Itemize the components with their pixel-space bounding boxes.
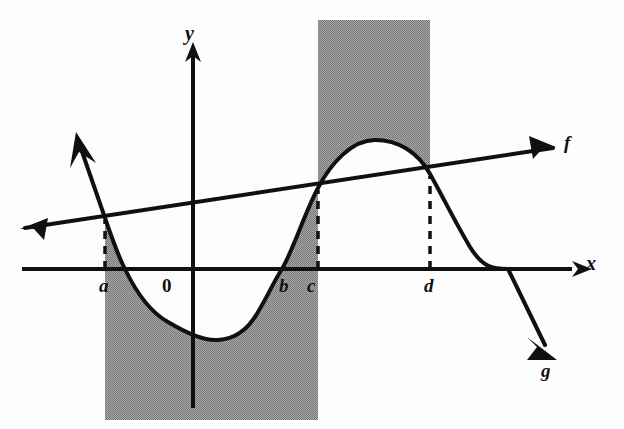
tick-label-b: b (279, 275, 289, 297)
tick-label-d: d (424, 275, 434, 297)
plot-area (0, 0, 624, 429)
tick-label-c: c (307, 275, 315, 297)
x-axis-label: x (586, 252, 596, 275)
curve-f-arrowhead-start (20, 218, 48, 240)
curve-label-g: g (541, 360, 551, 382)
tick-label-a: a (99, 275, 109, 297)
curve-label-f: f (564, 132, 570, 154)
curve-f-group (20, 136, 556, 240)
y-axis-label: y (185, 22, 194, 45)
curve-f-stroke (25, 148, 553, 228)
curve-g-arrowhead-start (70, 132, 96, 168)
shaded-region-a-to-c (105, 188, 318, 420)
figure-canvas: y x a 0 b c d f g (0, 0, 624, 429)
shaded-area-group (105, 20, 430, 420)
origin-label: 0 (162, 275, 172, 297)
